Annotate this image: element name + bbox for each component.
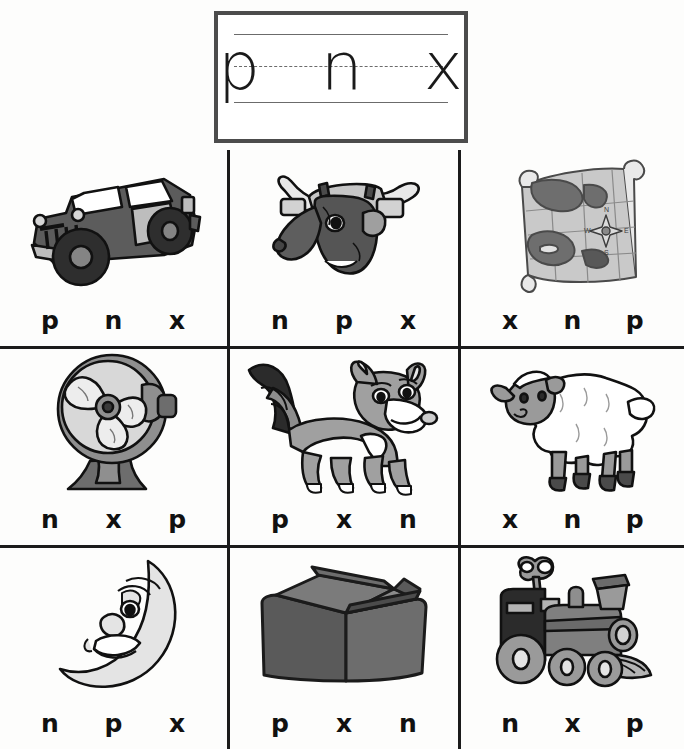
choice-option[interactable]: p bbox=[625, 308, 645, 334]
choice-option[interactable]: n bbox=[103, 308, 123, 334]
choice-option[interactable]: p bbox=[167, 507, 187, 533]
grid-cell-ox[interactable]: n p x bbox=[230, 150, 461, 349]
header-letters: p n x bbox=[218, 29, 464, 105]
choice-option[interactable]: x bbox=[398, 308, 418, 334]
choice-option[interactable]: p bbox=[625, 507, 645, 533]
choice-option[interactable]: n bbox=[40, 507, 60, 533]
jeep-icon bbox=[0, 152, 227, 302]
choice-row: p x n bbox=[230, 711, 458, 737]
grid-cell-lamb[interactable]: x n p bbox=[461, 349, 684, 548]
choice-row: n p x bbox=[0, 711, 227, 737]
choice-option[interactable]: x bbox=[562, 711, 582, 737]
lamb-icon bbox=[461, 351, 684, 501]
choice-option[interactable]: x bbox=[334, 507, 354, 533]
grid-cell-fan[interactable]: n x p bbox=[0, 349, 230, 548]
map-icon: N E S W bbox=[461, 152, 684, 302]
choice-option[interactable]: p bbox=[625, 711, 645, 737]
choice-option[interactable]: n bbox=[40, 711, 60, 737]
choice-row: p x n bbox=[230, 507, 458, 533]
choice-option[interactable]: p bbox=[40, 308, 60, 334]
moon-icon bbox=[0, 550, 227, 700]
svg-text:N: N bbox=[604, 206, 609, 213]
svg-text:W: W bbox=[584, 227, 591, 234]
grid-cell-moon[interactable]: n p x bbox=[0, 548, 230, 749]
train-icon bbox=[461, 550, 684, 700]
choice-option[interactable]: p bbox=[334, 308, 354, 334]
choice-option[interactable]: n bbox=[562, 507, 582, 533]
grid-cell-jeep[interactable]: p n x bbox=[0, 150, 230, 349]
choice-option[interactable]: n bbox=[500, 711, 520, 737]
choice-option[interactable]: p bbox=[270, 507, 290, 533]
choice-option[interactable]: n bbox=[562, 308, 582, 334]
choice-option[interactable]: x bbox=[167, 711, 187, 737]
choice-row: n x p bbox=[461, 711, 684, 737]
choice-option[interactable]: x bbox=[103, 507, 123, 533]
choice-option[interactable]: n bbox=[398, 711, 418, 737]
choice-row: x n p bbox=[461, 507, 684, 533]
choice-row: x n p bbox=[461, 308, 684, 334]
worksheet-grid: p n x bbox=[0, 150, 684, 749]
fox-icon bbox=[230, 351, 458, 501]
choice-row: p n x bbox=[0, 308, 227, 334]
choice-option[interactable]: n bbox=[270, 308, 290, 334]
grid-cell-map[interactable]: N E S W x n p bbox=[461, 150, 684, 349]
svg-text:S: S bbox=[604, 249, 609, 256]
fan-icon bbox=[0, 351, 227, 501]
choice-option[interactable]: p bbox=[270, 711, 290, 737]
ox-icon bbox=[230, 152, 458, 302]
grid-cell-train[interactable]: n x p bbox=[461, 548, 684, 749]
svg-text:E: E bbox=[624, 227, 629, 234]
choice-option[interactable]: x bbox=[167, 308, 187, 334]
choice-option[interactable]: x bbox=[500, 507, 520, 533]
grid-cell-fox[interactable]: p x n bbox=[230, 349, 461, 548]
choice-row: n x p bbox=[0, 507, 227, 533]
grid-cell-box[interactable]: p x n bbox=[230, 548, 461, 749]
choice-row: n p x bbox=[230, 308, 458, 334]
choice-option[interactable]: n bbox=[398, 507, 418, 533]
handwriting-practice-box: p n x bbox=[214, 11, 468, 143]
choice-option[interactable]: x bbox=[334, 711, 354, 737]
box-icon bbox=[230, 550, 458, 700]
choice-option[interactable]: x bbox=[500, 308, 520, 334]
choice-option[interactable]: p bbox=[103, 711, 123, 737]
